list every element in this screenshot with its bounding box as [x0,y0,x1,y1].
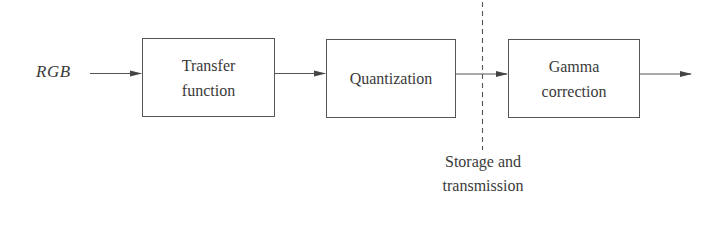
block-label-line1: Quantization [350,66,433,91]
divider-label-line1: Storage and [433,153,533,171]
divider-label-line2: transmission [427,177,539,195]
block-quantization: Quantization [326,39,456,118]
block-label-line1: Gamma [549,54,600,79]
block-label-line2: function [182,78,235,103]
block-transfer-function: Transfer function [142,38,275,117]
block-label-line2: correction [542,79,607,104]
block-gamma-correction: Gamma correction [508,39,640,118]
block-label-line1: Transfer [182,53,236,78]
input-label-rgb: RGB [36,62,71,82]
